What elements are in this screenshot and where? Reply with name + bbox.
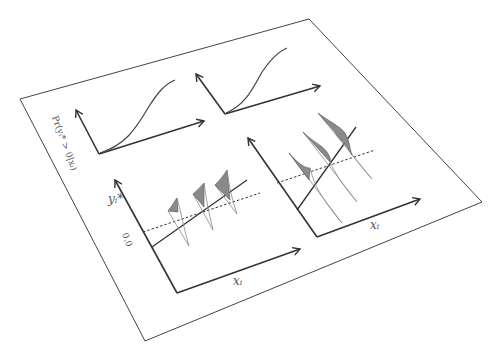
x-axis-label: xᵢ bbox=[370, 218, 380, 232]
diagram-canvas: Pr(yᵢ* > 0|xᵢ) yᵢ* 0.0 xᵢ bbox=[0, 0, 497, 361]
x-axis-label: xᵢ bbox=[233, 274, 243, 288]
latent-y-label: yᵢ* bbox=[107, 192, 123, 206]
sheet-frame bbox=[20, 19, 482, 341]
